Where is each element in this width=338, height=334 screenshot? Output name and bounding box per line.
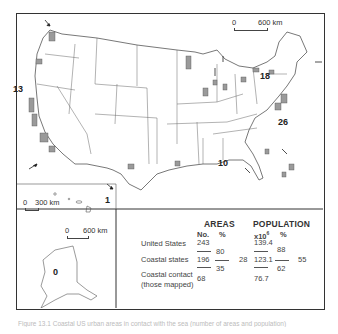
- areas-header: AREAS: [204, 219, 235, 229]
- row-us-pop: 139.4: [254, 238, 273, 247]
- figure-caption: Figure 13.1 Coastal US urban areas in co…: [18, 320, 328, 327]
- ratio-areas-states-us: 80: [216, 247, 224, 256]
- population-header: POPULATION: [253, 219, 310, 229]
- row-label-us: United States: [141, 239, 186, 248]
- row-label-coastal-contact-sub: (those mapped): [141, 280, 194, 289]
- map-figure-frame: 13 18 26 10 1 0 0 600 km 0 300 km 0 600 …: [16, 13, 325, 310]
- row-contact-areas: 68: [197, 274, 205, 283]
- row-label-coastal-contact: Coastal contact: [141, 270, 193, 279]
- row-contact-pop: 76.7: [254, 274, 269, 283]
- ratio-areas-contact-states: 35: [216, 264, 224, 273]
- row-states-pop: 123.1: [254, 255, 273, 264]
- col-pop-exponent: 6: [267, 230, 270, 236]
- col-pop-pct: %: [280, 230, 287, 239]
- row-label-coastal-states: Coastal states: [141, 255, 189, 264]
- ratio-pop-contact-us: 55: [298, 255, 306, 264]
- ratio-pop-contact-states: 62: [277, 264, 285, 273]
- ratio-pop-states-us: 88: [277, 245, 285, 254]
- statistics-table: AREAS POPULATION No. % x106 % United Sta…: [17, 14, 324, 309]
- col-areas-pct: %: [219, 230, 226, 239]
- row-us-areas: 243: [197, 238, 210, 247]
- ratio-areas-contact-us: 28: [239, 255, 247, 264]
- row-states-areas: 196: [197, 255, 210, 264]
